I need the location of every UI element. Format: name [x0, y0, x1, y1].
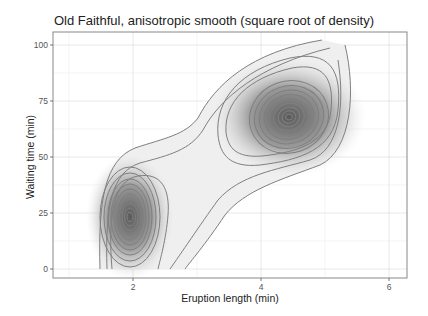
y-tick-25: 25 — [39, 208, 49, 218]
x-axis-labels: 2 4 6 — [131, 282, 392, 292]
x-tick-2: 2 — [131, 282, 136, 292]
x-axis-title: Eruption length (min) — [181, 292, 278, 304]
y-tick-75: 75 — [39, 96, 49, 106]
y-axis-title: Waiting time (min) — [24, 115, 36, 199]
y-tick-100: 100 — [34, 40, 48, 50]
x-tick-4: 4 — [259, 282, 264, 292]
x-tick-6: 6 — [387, 282, 392, 292]
y-tick-50: 50 — [39, 152, 49, 162]
chart-svg: 100 75 50 25 0 2 4 6 Eruption length (mi… — [0, 0, 428, 316]
y-tick-0: 0 — [43, 264, 48, 274]
